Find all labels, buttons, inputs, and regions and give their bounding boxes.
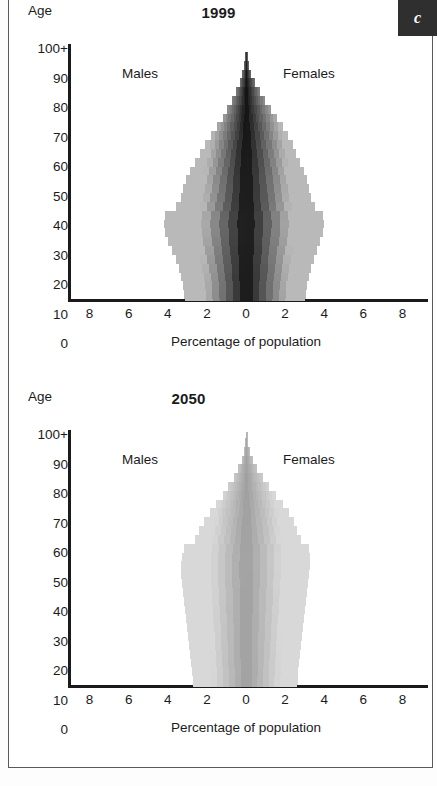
pyramid-bar-segment — [209, 167, 216, 176]
pyramid-bar-segment — [219, 544, 226, 553]
pyramid-bar-segment — [273, 114, 277, 123]
pyramid-bar-segment — [192, 299, 199, 301]
pyramid-bar-segment — [204, 517, 209, 526]
pyramid-bar-segment — [210, 570, 218, 579]
pyramid-bar-segment — [212, 290, 219, 299]
pyramid-bar-segment — [212, 535, 218, 544]
pyramid-bar-segment — [221, 246, 230, 255]
pyramid-bar-segment — [234, 167, 241, 176]
pyramid-bar-segment — [183, 255, 191, 264]
pyramid-bar-segment — [302, 544, 310, 553]
pyramid-bar-segment — [183, 202, 191, 211]
pyramid-bar-segment — [302, 273, 310, 282]
pyramid-bar-segment — [291, 685, 297, 687]
pyramid-bar-segment — [234, 131, 239, 140]
pyramid-bar-segment — [190, 650, 197, 659]
pyramid-bar-segment — [258, 87, 260, 96]
pyramid-bar-segment — [232, 290, 239, 299]
pyramid-bar-segment — [194, 237, 203, 246]
pyramid-bar-segment — [173, 220, 183, 229]
pyramid-bar-segment — [186, 175, 193, 184]
x-axis-tick-label: 6 — [348, 692, 378, 707]
pyramid-bar-segment — [211, 676, 218, 685]
pyramid-bar-segment — [174, 211, 184, 220]
pyramid-bar-segment — [233, 299, 240, 301]
pyramid-bar-segment — [197, 184, 205, 193]
pyramid-bar-segment — [247, 52, 248, 61]
pyramid-bar-segment — [226, 623, 233, 632]
pyramid-bar-segment — [232, 140, 237, 149]
pyramid-bar-segment — [227, 167, 234, 176]
pyramid-bar-segment — [193, 175, 200, 184]
pyramid-bar-segment — [206, 614, 213, 623]
x-axis-tick-label: 2 — [192, 306, 222, 321]
pyramid-bar-segment — [193, 614, 200, 623]
x-axis-title-1999: Percentage of population — [70, 334, 422, 349]
pyramid-bar-segment — [232, 517, 237, 526]
pyramid-bar-segment — [205, 149, 211, 158]
pyramid-bar-segment — [211, 685, 217, 687]
pyramid-bar-segment — [183, 228, 193, 237]
pyramid-bar-segment — [224, 570, 232, 579]
pyramid-bar-segment — [186, 264, 194, 273]
pyramid-bar-segment — [194, 264, 202, 273]
pyramid-bar-segment — [227, 641, 234, 650]
x-axis-tick-label: 8 — [75, 306, 105, 321]
pyramid-bar-segment — [204, 667, 211, 676]
pyramid-bar-segment — [192, 606, 199, 615]
x-axis-title-2050: Percentage of population — [70, 720, 422, 735]
pyramid-bar-segment — [207, 623, 214, 632]
x-axis-tick-label: 8 — [387, 692, 417, 707]
pyramid-bar-segment — [219, 220, 229, 229]
pyramid-bar-segment — [303, 193, 311, 202]
pyramid-bar-segment — [200, 220, 210, 229]
pyramid-bar-segment — [212, 597, 219, 606]
pyramid-bar-segment — [228, 140, 233, 149]
pyramid-bar-segment — [191, 290, 198, 299]
pyramid-bar-segment — [311, 237, 320, 246]
pyramid-bar-segment — [230, 131, 235, 140]
pyramid-bar-segment — [231, 264, 239, 273]
pyramid-bar-segment — [183, 281, 191, 290]
pyramid-bar-segment — [218, 588, 226, 597]
pyramid-bar-segment — [176, 255, 184, 264]
pyramid-bar-segment — [219, 228, 229, 237]
pyramid-bar-segment — [190, 167, 197, 176]
pyramid-bar-segment — [216, 676, 223, 685]
pyramid-bar-segment — [234, 508, 239, 517]
y-axis-tick-label: 0 — [22, 723, 68, 737]
pyramid-bar-segment — [211, 553, 219, 562]
pyramid-bar-segment — [232, 553, 240, 562]
pyramid-bar-segment — [185, 299, 192, 301]
pyramid-bar-segment — [225, 184, 233, 193]
pyramid-bar-segment — [200, 149, 206, 158]
pyramid-bar-segment — [238, 464, 239, 473]
pyramid-bar-segment — [197, 588, 205, 597]
pyramid-bar-segment — [180, 246, 189, 255]
pyramid-bar-segment — [196, 641, 203, 650]
pyramid-bar-segment — [295, 641, 302, 650]
x-axis-tick-label: 2 — [270, 692, 300, 707]
pyramid-bar-segment — [196, 246, 205, 255]
pyramid-bar-segment — [195, 193, 203, 202]
pyramid-bar-segment — [212, 544, 219, 553]
pyramid-bar-segment — [219, 131, 224, 140]
pyramid-bar-segment — [204, 579, 212, 588]
pyramid-bar-segment — [221, 167, 228, 176]
pyramid-bar-segment — [210, 220, 220, 229]
pyramid-bar-segment — [218, 579, 226, 588]
pyramid-bar-segment — [189, 273, 197, 282]
pyramid-bar-segment — [292, 676, 298, 685]
pyramid-bar-segment — [218, 553, 226, 562]
pyramid-bar-segment — [188, 246, 197, 255]
pyramid-bar-segment — [207, 202, 215, 211]
pyramid-bar-segment — [212, 606, 219, 615]
pyramid-bar-segment — [227, 517, 232, 526]
pyramid-bar-segment — [197, 281, 205, 290]
pyramid-bar-segment — [219, 500, 223, 509]
pyramid-bar-segment — [261, 473, 263, 482]
x-axis-tick-label: 6 — [348, 306, 378, 321]
pyramid-bar-segment — [200, 175, 207, 184]
pyramid-bar-segment — [232, 588, 240, 597]
pyramid-bar-segment — [192, 667, 199, 676]
